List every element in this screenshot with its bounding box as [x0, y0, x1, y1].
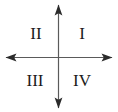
quadrant-label-4: IV — [73, 72, 91, 89]
quadrant-label-1: I — [79, 25, 85, 42]
coordinate-axes — [0, 0, 118, 112]
quadrant-diagram: I II III IV — [0, 0, 118, 112]
quadrant-label-2: II — [30, 25, 41, 42]
quadrant-label-3: III — [27, 72, 44, 89]
